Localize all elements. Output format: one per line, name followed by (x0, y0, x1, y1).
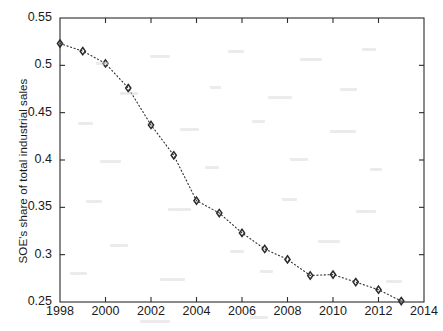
x-axis-tick-label: 2006 (219, 304, 265, 318)
x-axis-tick-label: 2004 (174, 304, 220, 318)
y-axis-tick-label: 0.35 (12, 199, 52, 213)
plot-background (60, 18, 424, 302)
x-axis-tick-label: 2002 (128, 304, 174, 318)
x-axis-tick-label: 2014 (401, 304, 443, 318)
y-axis-tick-label: 0.55 (12, 10, 52, 24)
x-axis-tick-label: 2008 (265, 304, 311, 318)
y-axis-tick-labels: 0.250.30.350.40.450.50.55 (0, 0, 52, 331)
y-axis-tick-label: 0.45 (12, 105, 52, 119)
y-axis-tick-label: 0.4 (12, 152, 52, 166)
y-axis-tick-label: 0.5 (12, 57, 52, 71)
x-axis-tick-label: 2000 (83, 304, 129, 318)
y-axis-tick-label: 0.3 (12, 247, 52, 261)
x-axis-tick-label: 1998 (37, 304, 83, 318)
x-axis-tick-labels: 199820002002200420062008201020122014 (0, 304, 430, 324)
x-axis-tick-label: 2010 (310, 304, 356, 318)
x-axis-tick-label: 2012 (356, 304, 402, 318)
